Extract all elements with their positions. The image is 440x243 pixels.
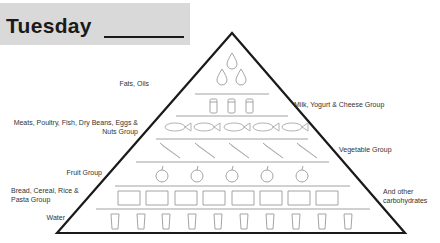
water-glass-icon bbox=[344, 214, 352, 229]
label-meats-line1: Meats, Poultry, Fish, Dry Beans, Eggs & bbox=[14, 118, 138, 127]
carrot-icon bbox=[160, 143, 180, 158]
water-glass-icon bbox=[266, 214, 274, 229]
fish-icon bbox=[282, 123, 308, 131]
fish-icon bbox=[194, 123, 220, 131]
water-glass-icon bbox=[318, 214, 326, 229]
oil-drop-icon bbox=[236, 69, 246, 85]
layer-dividers bbox=[96, 94, 370, 209]
label-vegetable: Vegetable Group bbox=[339, 145, 392, 154]
water-glass-icon bbox=[240, 214, 248, 229]
label-meats: Meats, Poultry, Fish, Dry Beans, Eggs & … bbox=[14, 118, 138, 136]
fish-icon bbox=[224, 123, 250, 131]
carrot-icons bbox=[160, 143, 317, 158]
apple-icon bbox=[191, 166, 203, 182]
label-fats: Fats, Oils bbox=[119, 79, 149, 88]
oil-drop-icons bbox=[217, 53, 246, 85]
label-bread-line1: Bread, Cereal, Rice & bbox=[11, 186, 79, 195]
water-glass-icon bbox=[162, 214, 170, 229]
label-bread-line2: Pasta Group bbox=[11, 195, 79, 204]
fish-icons bbox=[165, 123, 308, 131]
water-glass-icon bbox=[137, 214, 145, 229]
carrot-icon bbox=[195, 143, 215, 158]
label-milk: Milk, Yogurt & Cheese Group bbox=[294, 100, 384, 109]
bread-icon bbox=[232, 191, 254, 205]
bread-icon bbox=[316, 191, 338, 205]
apple-icon bbox=[261, 166, 273, 182]
milk-carton-icon bbox=[246, 99, 253, 113]
bread-icon bbox=[260, 191, 282, 205]
label-fruit: Fruit Group bbox=[67, 168, 102, 177]
water-glass-icons bbox=[111, 214, 352, 229]
bread-icon bbox=[203, 191, 225, 205]
bread-icon bbox=[288, 191, 310, 205]
water-glass-icon bbox=[188, 214, 196, 229]
apple-icons bbox=[156, 166, 308, 182]
apple-icon bbox=[156, 166, 168, 182]
oil-drop-icon bbox=[227, 53, 237, 69]
label-meats-line2: Nuts Group bbox=[14, 127, 138, 136]
fish-icon bbox=[165, 123, 191, 131]
milk-carton-icon bbox=[228, 99, 235, 113]
label-carbs-line2: carbohydrates bbox=[383, 196, 427, 205]
water-glass-icon bbox=[292, 214, 300, 229]
carrot-icon bbox=[229, 143, 249, 158]
apple-icon bbox=[226, 166, 238, 182]
milk-carton-icons bbox=[210, 99, 253, 113]
label-bread: Bread, Cereal, Rice & Pasta Group bbox=[11, 186, 79, 204]
apple-icon bbox=[296, 166, 308, 182]
water-glass-icon bbox=[214, 214, 222, 229]
milk-carton-icon bbox=[210, 99, 217, 113]
bread-icon bbox=[175, 191, 197, 205]
bread-icon bbox=[118, 191, 140, 205]
label-carbohydrates: And other carbohydrates bbox=[383, 187, 427, 205]
label-carbs-line1: And other bbox=[383, 187, 427, 196]
bread-icons bbox=[118, 191, 338, 205]
fish-icon bbox=[253, 123, 279, 131]
carrot-icon bbox=[297, 143, 317, 158]
oil-drop-icon bbox=[217, 69, 227, 85]
bread-icon bbox=[146, 191, 168, 205]
label-water: Water bbox=[47, 213, 65, 222]
water-glass-icon bbox=[111, 214, 119, 229]
carrot-icon bbox=[263, 143, 283, 158]
